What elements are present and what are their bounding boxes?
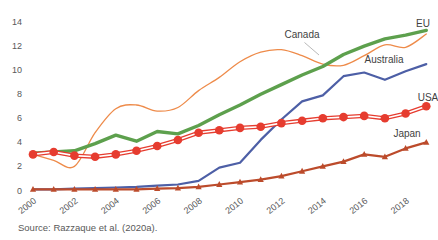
usa-point-marker bbox=[49, 148, 58, 157]
usa-point-marker bbox=[132, 146, 141, 155]
usa-point-marker bbox=[174, 136, 183, 145]
y-tick-label: 10 bbox=[12, 65, 22, 75]
series-label-japan: Japan bbox=[393, 128, 420, 139]
usa-point-marker bbox=[422, 102, 431, 111]
series-label-australia: Australia bbox=[365, 54, 404, 65]
series-label-eu: EU bbox=[416, 18, 430, 29]
usa-point-marker bbox=[319, 114, 328, 123]
x-tick-label: 2000 bbox=[16, 196, 38, 216]
y-tick-label: 8 bbox=[17, 89, 22, 99]
x-tick-label: 2010 bbox=[223, 196, 245, 216]
y-tick-label: 14 bbox=[12, 17, 22, 27]
x-tick-label: 2002 bbox=[58, 196, 80, 216]
usa-point-marker bbox=[298, 116, 307, 125]
usa-point-marker bbox=[153, 142, 162, 151]
y-tick-label: 0 bbox=[17, 186, 22, 196]
series-label-usa: USA bbox=[418, 92, 438, 103]
x-tick-label: 2012 bbox=[265, 196, 287, 216]
usa-point-marker bbox=[401, 109, 410, 118]
x-tick-label: 2006 bbox=[140, 196, 162, 216]
usa-point-marker bbox=[277, 119, 286, 128]
usa-point-marker bbox=[256, 122, 265, 131]
x-tick-label: 2004 bbox=[99, 196, 121, 216]
y-axis-tick-labels: 02468101214 bbox=[12, 17, 22, 196]
chart-canvas: 02468101214 2000200220042006200820102012… bbox=[0, 0, 438, 240]
x-axis-tick-labels: 2000200220042006200820102012201420162018 bbox=[16, 196, 411, 216]
usa-point-marker bbox=[194, 128, 203, 137]
usa-point-marker bbox=[215, 126, 224, 135]
y-tick-label: 12 bbox=[12, 41, 22, 51]
usa-point-marker bbox=[339, 113, 348, 122]
usa-point-marker bbox=[91, 152, 100, 161]
usa-point-marker bbox=[70, 151, 79, 160]
x-tick-label: 2018 bbox=[389, 196, 411, 216]
y-tick-label: 2 bbox=[17, 161, 22, 171]
preferences-line-chart: 02468101214 2000200220042006200820102012… bbox=[0, 0, 438, 240]
x-tick-label: 2016 bbox=[347, 196, 369, 216]
usa-point-marker bbox=[112, 150, 121, 159]
usa-point-marker bbox=[360, 112, 369, 121]
source-note: Source: Razzaque et al. (2020a). bbox=[18, 222, 157, 233]
usa-point-marker bbox=[381, 114, 390, 123]
japan-point-marker bbox=[423, 139, 429, 145]
series-line-australia bbox=[33, 64, 426, 189]
usa-point-marker bbox=[236, 124, 245, 133]
usa-point-marker bbox=[29, 150, 38, 159]
label-leader-canada bbox=[305, 43, 320, 56]
x-tick-label: 2008 bbox=[182, 196, 204, 216]
y-tick-label: 4 bbox=[17, 137, 22, 147]
y-tick-label: 6 bbox=[17, 113, 22, 123]
series-line-eu bbox=[33, 30, 426, 153]
x-tick-label: 2014 bbox=[306, 196, 328, 216]
series-label-canada: Canada bbox=[284, 29, 319, 40]
